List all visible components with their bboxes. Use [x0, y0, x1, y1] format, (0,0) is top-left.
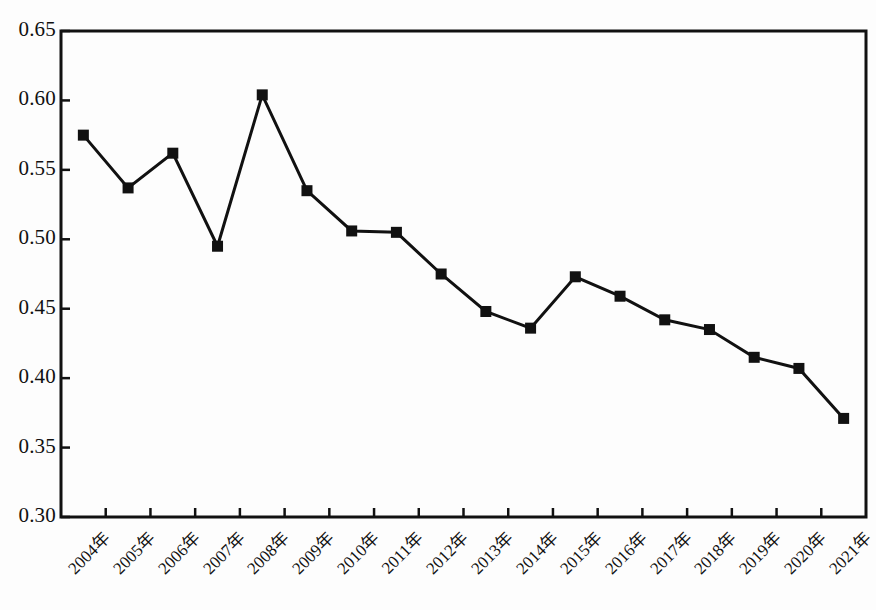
data-point-marker	[570, 271, 581, 282]
chart-figure: 0.300.350.400.450.500.550.600.65 2004年20…	[0, 0, 876, 610]
y-axis-tick-label: 0.65	[0, 17, 56, 42]
data-point-marker	[749, 352, 760, 363]
y-axis-tick-label: 0.35	[0, 434, 56, 459]
data-point-marker	[167, 148, 178, 159]
data-point-marker	[525, 323, 536, 334]
data-point-markers	[78, 89, 849, 424]
data-point-marker	[346, 225, 357, 236]
data-point-marker	[793, 363, 804, 374]
y-axis-tick-label: 0.45	[0, 295, 56, 320]
data-point-marker	[391, 227, 402, 238]
data-series-line	[78, 89, 849, 424]
y-axis-tick-label: 0.40	[0, 364, 56, 389]
data-point-marker	[257, 89, 268, 100]
line-chart-canvas	[0, 0, 876, 610]
y-axis-tick-label: 0.50	[0, 225, 56, 250]
data-point-marker	[659, 314, 670, 325]
data-point-marker	[436, 269, 447, 280]
plot-frame	[61, 31, 866, 517]
y-axis-tick-label: 0.30	[0, 503, 56, 528]
data-point-marker	[838, 413, 849, 424]
data-point-marker	[301, 185, 312, 196]
data-point-marker	[123, 182, 134, 193]
y-axis-tick-label: 0.60	[0, 86, 56, 111]
data-point-marker	[212, 241, 223, 252]
data-point-marker	[78, 130, 89, 141]
y-axis-tick-label: 0.55	[0, 156, 56, 181]
data-point-marker	[480, 306, 491, 317]
data-point-marker	[704, 324, 715, 335]
data-point-marker	[615, 291, 626, 302]
